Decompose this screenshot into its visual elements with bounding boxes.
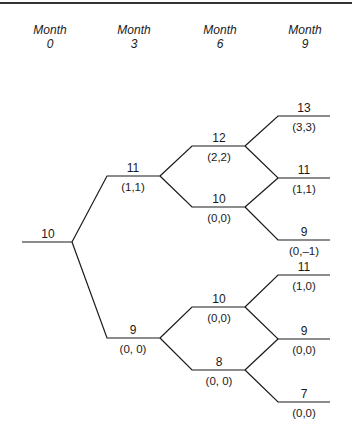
node-month6-ud: 10 (0,0) <box>207 192 231 224</box>
node-month6-du: 10 (0,0) <box>207 292 231 324</box>
node-payoff: (0,–1) <box>289 245 319 257</box>
node-value: 10 <box>212 292 226 306</box>
node-value: 10 <box>212 192 226 206</box>
tree-edges <box>22 116 330 402</box>
node-payoff: (3,3) <box>292 121 316 133</box>
node-month9-3: 9 (0,–1) <box>289 225 319 257</box>
header-month-6-number: 6 <box>217 37 224 51</box>
node-value: 8 <box>216 355 223 369</box>
node-payoff: (0,0) <box>207 212 231 224</box>
node-month9-5: 9 (0,0) <box>292 324 316 356</box>
node-month9-2: 11 (1,1) <box>292 163 316 195</box>
node-payoff: (1,0) <box>292 280 316 292</box>
node-payoff: (2,2) <box>207 151 231 163</box>
node-value: 12 <box>212 131 226 145</box>
node-month3-down: 9 (0, 0) <box>120 323 147 355</box>
header-month-6-label: Month <box>203 23 237 37</box>
node-month6-dd: 8 (0, 0) <box>206 355 233 387</box>
node-payoff: (0,0) <box>292 407 316 419</box>
node-month6-uu: 12 (2,2) <box>207 131 231 163</box>
node-value: 10 <box>41 227 55 241</box>
node-value: 13 <box>297 101 311 115</box>
node-payoff: (0, 0) <box>206 375 233 387</box>
header-month-3-label: Month <box>117 23 151 37</box>
header-month-0-number: 0 <box>47 37 54 51</box>
column-headers: Month 0 Month 3 Month 6 Month 9 <box>33 23 322 51</box>
node-value: 9 <box>130 323 137 337</box>
header-month-3-number: 3 <box>131 37 138 51</box>
node-payoff: (0,0) <box>207 312 231 324</box>
node-month9-4: 11 (1,0) <box>292 260 316 292</box>
node-value: 11 <box>298 163 311 177</box>
node-value: 9 <box>301 324 308 338</box>
header-month-0-label: Month <box>33 23 67 37</box>
node-month3-up: 11 (1,1) <box>121 161 145 193</box>
header-month-9-number: 9 <box>302 37 309 51</box>
binomial-tree-diagram: Month 0 Month 3 Month 6 Month 9 10 11 <box>0 0 352 440</box>
node-root: 10 <box>41 227 55 241</box>
node-month9-6: 7 (0,0) <box>292 387 316 419</box>
node-value: 11 <box>298 260 311 274</box>
node-value: 9 <box>301 225 308 239</box>
node-payoff: (0, 0) <box>120 343 147 355</box>
header-month-9-label: Month <box>288 23 322 37</box>
node-value: 7 <box>301 387 308 401</box>
node-payoff: (1,1) <box>292 183 316 195</box>
node-month9-1: 13 (3,3) <box>292 101 316 133</box>
node-payoff: (1,1) <box>121 181 145 193</box>
node-payoff: (0,0) <box>292 344 316 356</box>
node-value: 11 <box>127 161 140 175</box>
